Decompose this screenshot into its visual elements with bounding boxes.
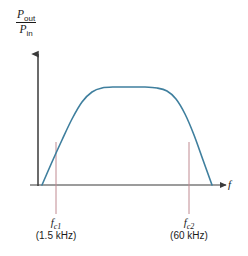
cutoff-low-symbol: fc1 <box>20 216 92 229</box>
cutoff-low-value: (1.5 kHz) <box>20 230 92 242</box>
x-axis-label: f <box>228 178 231 190</box>
response-curve <box>42 87 212 185</box>
cutoff-low-label: fc1 (1.5 kHz) <box>20 216 92 243</box>
y-axis-denominator: Pin <box>16 22 36 36</box>
cutoff-high-value: (60 kHz) <box>151 230 227 242</box>
frequency-response-figure: Pout Pin f fc1 (1.5 kHz) fc2 (60 kHz) <box>0 0 248 256</box>
y-axis-numerator: Pout <box>16 9 36 22</box>
cutoff-high-label: fc2 (60 kHz) <box>151 216 227 243</box>
cutoff-high-symbol: fc2 <box>151 216 227 229</box>
y-axis-label: Pout Pin <box>16 9 36 35</box>
